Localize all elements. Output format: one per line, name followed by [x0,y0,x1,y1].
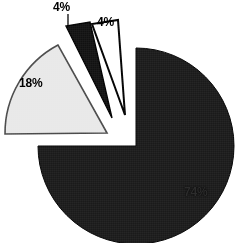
pie-label-black: 4% [53,1,70,13]
pie-label-gray: 18% [19,77,42,89]
pie-chart-canvas [0,0,241,243]
pie-chart: 74% 18% 4% 4% [0,0,241,243]
pie-label-white: 4% [97,16,114,28]
pie-label-major: 74% [184,186,207,198]
